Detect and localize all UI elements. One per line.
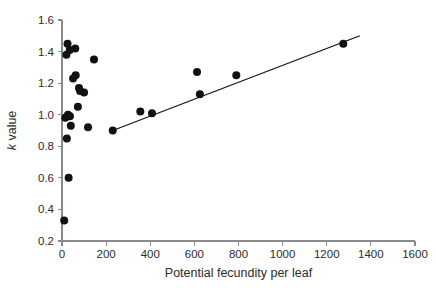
data-point (196, 90, 204, 98)
y-tick-label: 0.6 (38, 172, 54, 184)
data-point (84, 123, 92, 131)
x-tick-labels: 02004006008001000120014001600 (59, 248, 428, 260)
x-tick-label: 1200 (314, 248, 340, 260)
x-tick-label: 1400 (358, 248, 384, 260)
x-axis-title: Potential fecundity per leaf (165, 266, 313, 280)
data-point (72, 71, 80, 79)
y-tick-label: 1.0 (38, 109, 54, 121)
data-point (109, 127, 117, 135)
data-point (65, 174, 73, 182)
y-tick-label: 1.2 (38, 77, 54, 89)
y-tick-label: 1.4 (38, 46, 55, 58)
data-point (232, 71, 240, 79)
data-points (60, 40, 347, 225)
data-point (63, 134, 71, 142)
scatter-plot: 02004006008001000120014001600 0.20.40.60… (0, 0, 436, 291)
data-point (67, 122, 75, 130)
data-point (136, 108, 144, 116)
x-tick-label: 1000 (270, 248, 296, 260)
y-axis-title-word: value (5, 111, 19, 144)
data-point (339, 40, 347, 48)
data-point (71, 44, 79, 52)
data-point (90, 55, 98, 63)
data-point (74, 103, 82, 111)
data-point (193, 68, 201, 76)
y-tick-labels: 0.20.40.60.81.01.21.41.6 (38, 14, 55, 247)
data-point (148, 109, 156, 117)
data-point (66, 112, 74, 120)
x-tick-label: 400 (141, 248, 160, 260)
x-tick-label: 0 (59, 248, 65, 260)
data-point (80, 89, 88, 97)
x-tick-label: 600 (185, 248, 204, 260)
y-tick-label: 0.2 (38, 235, 54, 247)
x-tick-label: 200 (97, 248, 116, 260)
x-tick-label: 1600 (402, 248, 428, 260)
y-tick-label: 0.8 (38, 140, 54, 152)
data-point (60, 216, 68, 224)
y-tick-label: 0.4 (38, 203, 55, 215)
y-axis-title-text: k value (5, 111, 19, 151)
x-axis-title-text: Potential fecundity per leaf (165, 266, 313, 280)
y-axis-title: k value (5, 111, 19, 151)
y-tick-label: 1.6 (38, 14, 54, 26)
chart-figure: 02004006008001000120014001600 0.20.40.60… (0, 0, 436, 291)
x-tick-label: 800 (229, 248, 248, 260)
